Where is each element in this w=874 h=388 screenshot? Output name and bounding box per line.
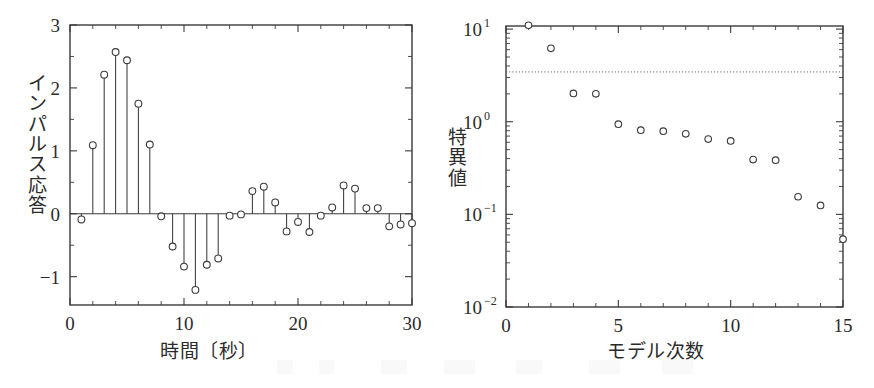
singular-plot-frame: [506, 26, 843, 307]
singular-y-tick-exponent: −2: [484, 294, 497, 308]
singular-data-marker: [772, 157, 779, 164]
impulse-data-marker: [203, 261, 210, 268]
impulse-data-marker: [192, 286, 199, 293]
impulse-data-marker: [238, 211, 245, 218]
singular-data-marker: [727, 138, 734, 145]
y-axis-title-char: 特: [446, 128, 468, 148]
impulse-data-marker: [135, 100, 142, 107]
singular-y-tick-label: 10: [463, 297, 482, 318]
singular-data-marker: [840, 236, 847, 243]
y-axis-title-char: 値: [446, 169, 468, 189]
impulse-x-tick-label: 0: [65, 313, 75, 334]
singular-y-tick-exponent: 0: [484, 109, 490, 123]
singular-y-tick-label: 10: [463, 204, 482, 225]
singular-data-marker: [817, 202, 824, 209]
singular-x-tick-label: 10: [721, 315, 740, 336]
singular-y-tick-exponent: 1: [484, 16, 490, 30]
singular-x-tick-label: 0: [501, 315, 511, 336]
impulse-y-tick-label: 1: [51, 141, 61, 162]
impulse-data-marker: [158, 213, 165, 220]
impulse-data-marker: [283, 228, 290, 235]
y-axis-title-char: イ: [26, 74, 48, 94]
impulse-data-marker: [340, 182, 347, 189]
impulse-data-marker: [169, 243, 176, 250]
y-axis-title-char: 異: [446, 148, 468, 168]
y-axis-title-char: 答: [26, 196, 48, 216]
impulse-data-marker: [112, 49, 119, 56]
y-axis-title-char: ル: [26, 135, 48, 155]
singular-data-marker: [525, 22, 532, 29]
singular-data-marker: [570, 90, 577, 97]
singular-data-marker: [638, 127, 645, 134]
impulse-data-marker: [101, 71, 108, 78]
singular-data-marker: [593, 91, 600, 98]
singular-y-tick-exponent: −1: [484, 201, 497, 215]
impulse-x-tick-label: 20: [289, 313, 308, 334]
impulse-response-panel: −101230102030 インパルス応答 時間〔秒〕: [0, 0, 437, 388]
singular-x-tick-label: 5: [614, 315, 624, 336]
singular-data-marker: [705, 136, 712, 143]
singular-data-marker: [615, 121, 622, 128]
impulse-data-marker: [317, 212, 324, 219]
impulse-x-tick-label: 30: [403, 313, 422, 334]
singular-x-tick-label: 15: [834, 315, 853, 336]
impulse-data-marker: [295, 219, 302, 226]
singular-value-series: [525, 22, 846, 242]
impulse-data-marker: [386, 223, 393, 230]
singular-values-y-axis-title: 特異値: [446, 128, 468, 189]
singular-y-tick-label: 10: [463, 19, 482, 40]
impulse-y-tick-label: 0: [51, 204, 61, 225]
impulse-response-y-axis-title: インパルス応答: [26, 74, 48, 216]
singular-values-x-axis-title: モデル次数: [607, 336, 705, 363]
singular-data-marker: [660, 128, 667, 135]
singular-data-marker: [795, 193, 802, 200]
impulse-stem-series: [78, 49, 415, 294]
impulse-data-marker: [124, 57, 131, 64]
impulse-y-tick-label: 3: [51, 15, 61, 36]
impulse-data-marker: [181, 263, 188, 270]
impulse-data-marker: [306, 229, 313, 236]
y-axis-title-char: ス: [26, 155, 48, 175]
singular-values-panel: 10−210−1100101051015 特異値 モデル次数: [437, 0, 874, 388]
impulse-data-marker: [397, 221, 404, 228]
impulse-data-marker: [272, 199, 279, 206]
impulse-data-marker: [329, 204, 336, 211]
impulse-data-marker: [215, 255, 222, 262]
impulse-response-plot: −101230102030: [0, 0, 437, 388]
impulse-data-marker: [409, 220, 416, 227]
impulse-response-x-axis-title: 時間〔秒〕: [160, 336, 258, 363]
impulse-data-marker: [78, 216, 85, 223]
impulse-y-tick-label: −1: [40, 267, 60, 288]
impulse-data-marker: [89, 142, 96, 149]
singular-data-marker: [750, 156, 757, 163]
figure-root: −101230102030 インパルス応答 時間〔秒〕 10−210−11001…: [0, 0, 874, 388]
impulse-data-marker: [352, 185, 359, 192]
y-axis-title-char: ン: [26, 94, 48, 114]
impulse-data-marker: [260, 183, 267, 190]
impulse-y-tick-label: 2: [51, 78, 61, 99]
impulse-data-marker: [374, 205, 381, 212]
singular-data-marker: [548, 45, 555, 52]
singular-values-plot: 10−210−1100101051015: [437, 0, 874, 388]
singular-data-marker: [682, 131, 689, 138]
impulse-x-tick-label: 10: [175, 313, 194, 334]
impulse-data-marker: [363, 205, 370, 212]
impulse-data-marker: [226, 212, 233, 219]
y-axis-title-char: パ: [26, 115, 48, 135]
y-axis-title-char: 応: [26, 176, 48, 196]
impulse-plot-frame: [70, 25, 412, 305]
impulse-data-marker: [249, 188, 256, 195]
impulse-data-marker: [146, 141, 153, 148]
